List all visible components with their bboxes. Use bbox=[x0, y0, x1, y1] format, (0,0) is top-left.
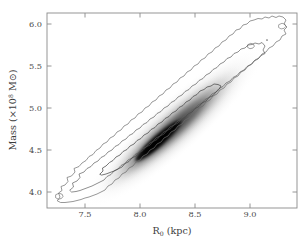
x-tick-label-1: 8.0 bbox=[133, 209, 146, 219]
y-axis-label: Mass (×108 M⊙) bbox=[7, 69, 18, 150]
contour-point-speck bbox=[266, 39, 268, 41]
contour-plot: 7.5 8.0 8.5 9.0 6.0 5.5 5.0 4.5 4.0 R0 (… bbox=[0, 0, 308, 242]
x-tick-label-0: 7.5 bbox=[78, 209, 91, 219]
x-axis-label-unit-text: (kpc) bbox=[167, 225, 192, 236]
y-tick-label-0: 4.0 bbox=[29, 187, 42, 197]
y-tick-label-2: 5.0 bbox=[29, 103, 42, 113]
y-tick-label-3: 5.5 bbox=[29, 61, 42, 71]
y-axis-label-mass-symbol: M⊙) bbox=[7, 69, 18, 94]
y-axis-label-open: (×10 bbox=[7, 98, 18, 122]
x-tick-label-2: 8.5 bbox=[188, 209, 201, 219]
y-tick-label-4: 6.0 bbox=[29, 19, 42, 29]
figure-panel: 7.5 8.0 8.5 9.0 6.0 5.5 5.0 4.5 4.0 R0 (… bbox=[0, 0, 308, 242]
y-axis-label-name: Mass bbox=[7, 125, 18, 150]
x-axis-label: R0 (kpc) bbox=[152, 225, 191, 237]
y-tick-label-1: 4.5 bbox=[29, 145, 42, 155]
x-tick-label-3: 9.0 bbox=[243, 209, 256, 219]
